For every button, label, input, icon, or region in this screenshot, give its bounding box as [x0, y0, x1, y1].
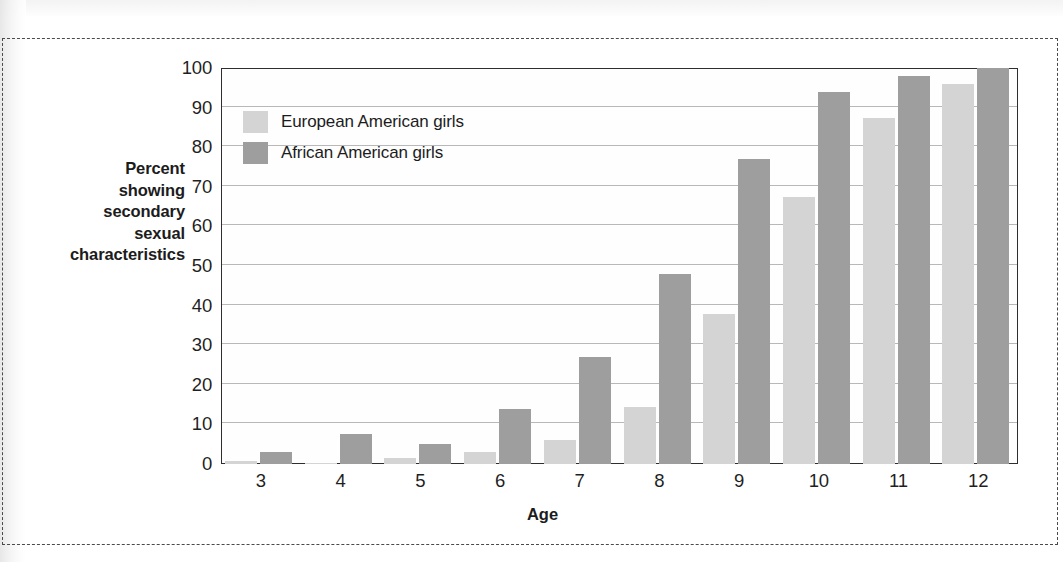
- bar-european-american-age-10: [783, 197, 815, 464]
- x-axis-tick-label: 11: [889, 470, 908, 492]
- bar-african-american-age-12: [977, 68, 1009, 464]
- legend-entry: European American girls: [243, 106, 573, 137]
- bar-european-american-age-3: [225, 461, 257, 464]
- bar-african-american-age-6: [499, 409, 531, 464]
- bar-european-american-age-11: [863, 118, 895, 465]
- bar-african-american-age-4: [340, 434, 372, 464]
- legend-label-european-american-girls: European American girls: [281, 112, 464, 132]
- bar-african-american-age-3: [260, 452, 292, 464]
- x-axis-tick-label: 5: [415, 470, 425, 492]
- x-axis-tick-label: 8: [654, 470, 664, 492]
- bar-group-age-11: [859, 68, 939, 464]
- x-axis-tick-label: 6: [495, 470, 505, 492]
- bar-chart-figure: Percent showing secondary sexual charact…: [0, 0, 1063, 562]
- bar-european-american-age-9: [703, 314, 735, 464]
- y-axis-tick-label: 40: [150, 295, 212, 317]
- x-axis-tick-label: 9: [734, 470, 744, 492]
- x-axis-tick-label: 12: [968, 470, 988, 492]
- x-axis-tick-label: 4: [336, 470, 346, 492]
- bar-european-american-age-8: [624, 407, 656, 464]
- y-axis-tick-labels: 1009080706050403020100: [150, 68, 212, 464]
- bar-african-american-age-10: [818, 92, 850, 464]
- legend-entry: African American girls: [243, 137, 573, 168]
- y-axis-tick-label: 90: [150, 97, 212, 119]
- x-axis-tick-label: 3: [256, 470, 266, 492]
- y-axis-tick-label: 80: [150, 136, 212, 158]
- y-axis-tick-label: 60: [150, 215, 212, 237]
- y-axis-tick-label: 20: [150, 374, 212, 396]
- bar-african-american-age-8: [659, 274, 691, 464]
- bar-african-american-age-5: [419, 444, 451, 464]
- y-axis-tick-label: 30: [150, 334, 212, 356]
- x-axis-tick-label: 10: [809, 470, 829, 492]
- legend-swatch-african-american-girls: [243, 142, 268, 164]
- bar-group-age-12: [938, 68, 1018, 464]
- x-axis-tick-label: 7: [575, 470, 585, 492]
- bar-african-american-age-9: [738, 159, 770, 464]
- y-axis-tick-label: 0: [150, 453, 212, 475]
- bar-african-american-age-7: [579, 357, 611, 464]
- bar-european-american-age-7: [544, 440, 576, 464]
- x-axis-title: Age: [0, 505, 1063, 524]
- y-axis-tick-label: 10: [150, 413, 212, 435]
- bar-european-american-age-12: [942, 84, 974, 464]
- bar-european-american-age-6: [464, 452, 496, 464]
- y-axis-tick-label: 100: [150, 57, 212, 79]
- bar-european-american-age-5: [384, 458, 416, 464]
- x-axis-tick-labels: 3456789101112: [221, 470, 1018, 496]
- chart-legend: European American girls African American…: [243, 106, 573, 168]
- legend-swatch-european-american-girls: [243, 111, 268, 133]
- y-axis-tick-label: 70: [150, 176, 212, 198]
- bar-group-age-10: [779, 68, 859, 464]
- legend-label-african-american-girls: African American girls: [281, 143, 443, 163]
- bar-group-age-9: [699, 68, 779, 464]
- bar-african-american-age-11: [898, 76, 930, 464]
- bar-group-age-8: [620, 68, 700, 464]
- y-axis-tick-label: 50: [150, 255, 212, 277]
- bar-european-american-age-4: [305, 463, 337, 464]
